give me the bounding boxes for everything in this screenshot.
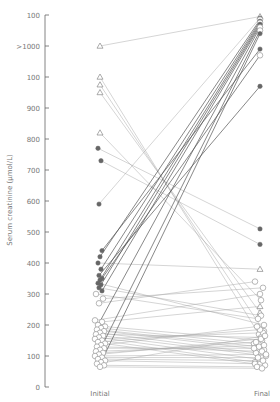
y-tick-label: >1000	[16, 43, 40, 51]
series-line	[102, 306, 260, 322]
series-line	[98, 27, 260, 325]
y-tick-label: 400	[27, 260, 40, 268]
open-circle-marker	[254, 324, 260, 330]
triangle-marker	[97, 82, 103, 87]
y-tick-label: 600	[27, 198, 40, 206]
open-circle-marker	[96, 301, 102, 307]
series-line	[101, 34, 260, 363]
open-circle-marker	[258, 297, 264, 303]
series-line	[104, 365, 257, 367]
series-line	[95, 294, 260, 320]
filled-circle-marker	[258, 31, 262, 35]
filled-circle-marker	[98, 255, 102, 259]
triangle-marker	[257, 266, 263, 271]
y-tick-label: 0	[36, 384, 40, 392]
series-line	[99, 282, 255, 304]
triangle-marker	[97, 74, 103, 79]
y-tick-label: 200	[27, 322, 40, 330]
open-circle-marker	[255, 355, 261, 361]
filled-circle-marker	[99, 267, 103, 271]
series-lines	[95, 17, 266, 369]
filled-circle-marker	[258, 227, 262, 231]
series-line	[101, 24, 260, 284]
filled-circle-marker	[258, 242, 262, 246]
open-circle-marker	[263, 352, 269, 358]
series-markers	[92, 14, 269, 372]
triangle-marker	[97, 130, 103, 135]
x-category-final: Final	[254, 390, 270, 398]
y-tick-label: 900	[27, 105, 40, 113]
filled-circle-marker	[97, 202, 101, 206]
y-axis: 0100200300400500600700800900100>1000100	[16, 12, 49, 392]
series-line	[102, 55, 260, 278]
y-tick-label: 800	[27, 136, 40, 144]
open-circle-marker	[262, 333, 268, 339]
filled-circle-marker	[96, 146, 100, 150]
open-circle-marker	[97, 364, 103, 370]
series-line	[98, 263, 260, 269]
series-line	[100, 23, 260, 280]
open-circle-marker	[252, 279, 258, 285]
filled-circle-marker	[258, 84, 262, 88]
paired-slope-chart: 0100200300400500600700800900100>1000100 …	[0, 0, 280, 402]
open-circle-marker	[253, 339, 259, 345]
series-line	[102, 26, 260, 291]
open-circle-marker	[251, 345, 257, 351]
open-circle-marker	[100, 296, 106, 302]
filled-circle-marker	[100, 289, 104, 293]
series-line	[95, 354, 266, 356]
open-circle-marker	[261, 322, 267, 328]
filled-circle-marker	[96, 261, 100, 265]
y-axis-title: Serum creatinine (μmol/L)	[6, 154, 14, 246]
open-circle-marker	[261, 342, 267, 348]
filled-circle-marker	[258, 47, 262, 51]
y-tick-label: 500	[27, 229, 40, 237]
series-line	[100, 20, 260, 257]
series-line	[98, 148, 260, 229]
series-line	[100, 17, 260, 46]
y-tick-label: 300	[27, 291, 40, 299]
open-circle-marker	[259, 366, 265, 372]
series-line	[100, 133, 261, 300]
x-category-initial: Initial	[90, 390, 109, 398]
filled-circle-marker	[100, 248, 104, 252]
open-circle-marker	[257, 291, 263, 297]
series-line	[100, 85, 264, 331]
series-line	[99, 18, 260, 204]
triangle-marker	[257, 303, 263, 308]
open-circle-marker	[260, 358, 266, 364]
y-tick-label: 700	[27, 167, 40, 175]
open-circle-marker	[255, 316, 261, 322]
open-circle-marker	[93, 291, 99, 297]
y-tick-label: 100	[27, 74, 40, 82]
y-tick-label: 100	[27, 353, 40, 361]
y-tick-label: 100	[27, 12, 40, 20]
open-circle-marker	[260, 285, 266, 291]
open-circle-marker	[257, 53, 263, 59]
series-line	[100, 367, 262, 369]
triangle-marker	[97, 90, 103, 95]
filled-circle-marker	[99, 159, 103, 163]
